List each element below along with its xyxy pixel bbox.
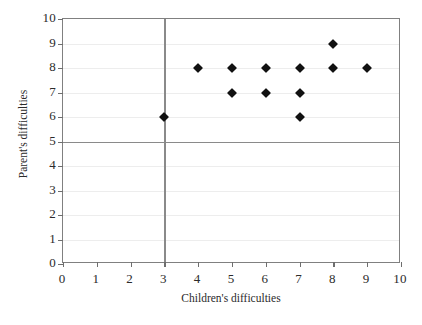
data-point	[193, 63, 203, 73]
data-point	[295, 63, 305, 73]
gridline-y-6	[63, 117, 399, 118]
tick-x-10	[401, 262, 402, 267]
data-point	[159, 112, 169, 122]
tick-y-2	[58, 215, 63, 216]
gridline-y-9	[63, 44, 399, 45]
data-point	[295, 112, 305, 122]
y-tick-label-10: 10	[16, 10, 56, 26]
reference-line-vertical-3	[164, 19, 166, 262]
gridline-y-3	[63, 191, 399, 192]
tick-x-2	[131, 262, 132, 267]
tick-y-9	[58, 44, 63, 45]
tick-x-7	[300, 262, 301, 267]
tick-y-4	[58, 166, 63, 167]
data-point	[227, 63, 237, 73]
data-point	[328, 63, 338, 73]
tick-y-6	[58, 117, 63, 118]
y-tick-label-2: 2	[16, 206, 56, 222]
plot-area	[62, 18, 400, 263]
reference-line-horizontal-5	[63, 142, 399, 144]
data-point	[227, 88, 237, 98]
data-point	[295, 88, 305, 98]
x-tick-label-10: 10	[380, 271, 420, 287]
tick-x-0	[63, 262, 64, 267]
data-point	[328, 39, 338, 49]
y-axis-title: Parent's difficulties	[17, 64, 29, 204]
tick-y-5	[58, 142, 63, 143]
tick-y-7	[58, 93, 63, 94]
tick-y-1	[58, 240, 63, 241]
tick-y-8	[58, 68, 63, 69]
gridline-y-4	[63, 166, 399, 167]
tick-x-1	[97, 262, 98, 267]
tick-x-4	[198, 262, 199, 267]
x-axis-tick-labels: 012345678910	[62, 271, 400, 289]
y-tick-label-9: 9	[16, 35, 56, 51]
data-point	[362, 63, 372, 73]
tick-x-5	[232, 262, 233, 267]
tick-y-3	[58, 191, 63, 192]
gridline-y-1	[63, 240, 399, 241]
tick-x-8	[333, 262, 334, 267]
tick-x-6	[266, 262, 267, 267]
x-axis-title: Children's difficulties	[62, 292, 400, 304]
gridline-y-2	[63, 215, 399, 216]
data-point	[261, 88, 271, 98]
data-point	[261, 63, 271, 73]
scatter-chart: 012345678910 012345678910 Children's dif…	[0, 0, 422, 325]
y-tick-label-1: 1	[16, 231, 56, 247]
tick-y-10	[58, 19, 63, 20]
tick-x-3	[164, 262, 165, 267]
y-tick-label-0: 0	[16, 255, 56, 271]
tick-x-9	[367, 262, 368, 267]
